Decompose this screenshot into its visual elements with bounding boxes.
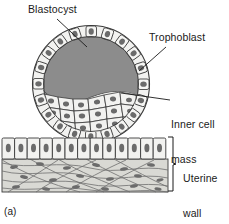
label-inner-cell-mass-line1: Inner cell — [171, 119, 215, 131]
figure-blastocyst-implantation: Blastocyst Trophoblast Inner cell mass U… — [0, 0, 229, 224]
figure-panel-label: (a) — [4, 206, 17, 218]
blastocyst-structure — [33, 26, 150, 146]
label-uterine-wall-line1: Uterine — [183, 173, 218, 185]
label-trophoblast: Trophoblast — [149, 32, 205, 44]
uterine-wall-structure — [2, 138, 168, 192]
label-uterine-wall: Uterine wall — [183, 150, 218, 224]
label-blastocyst: Blastocyst — [28, 4, 77, 16]
label-uterine-wall-line2: wall — [183, 208, 218, 220]
